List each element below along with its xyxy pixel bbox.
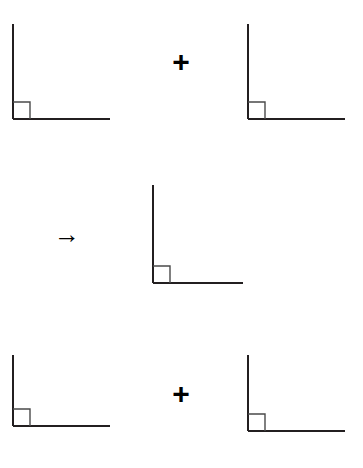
- right-angle-figure-top-left: [9, 20, 114, 123]
- plus-sign-top: +: [161, 42, 201, 82]
- right-angle-figure-top-left-svg: [9, 20, 114, 123]
- right-angle-marker: [248, 102, 265, 119]
- right-angle-marker: [13, 409, 30, 426]
- plus-sign-bottom: +: [161, 374, 201, 414]
- right-angle-figure-result-svg: [149, 181, 247, 287]
- right-angle-figure-bottom-right-svg: [244, 351, 349, 435]
- right-angle-figure-top-right-svg: [244, 20, 349, 123]
- right-angle-marker: [248, 414, 265, 431]
- right-angle-figure-result: [149, 181, 247, 287]
- right-angle-marker: [13, 102, 30, 119]
- right-angle-figure-top-right: [244, 20, 349, 123]
- right-arrow-icon: →: [47, 215, 87, 255]
- right-angle-figure-bottom-right: [244, 351, 349, 435]
- diagram-canvas: + → +: [0, 0, 363, 468]
- right-angle-figure-bottom-left: [9, 351, 114, 430]
- right-angle-marker: [153, 266, 170, 283]
- right-angle-figure-bottom-left-svg: [9, 351, 114, 430]
